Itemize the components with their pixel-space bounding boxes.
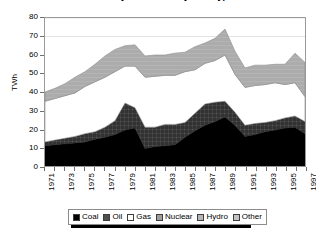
x-tick-label: 1973 bbox=[68, 173, 76, 191]
legend-item-nuclear[interactable]: Nuclear bbox=[156, 213, 193, 221]
plot-area bbox=[44, 17, 306, 167]
x-tick-mark bbox=[165, 167, 166, 171]
x-tick-mark bbox=[115, 167, 116, 171]
plot-inner bbox=[45, 18, 305, 166]
x-tick-mark bbox=[276, 167, 277, 171]
hydro-swatch bbox=[197, 214, 204, 221]
nuclear-swatch bbox=[156, 214, 163, 221]
legend-label: Coal bbox=[82, 213, 98, 221]
x-tick-mark bbox=[145, 167, 146, 171]
x-tick-label: 1983 bbox=[169, 173, 177, 191]
legend-label: Other bbox=[242, 213, 262, 221]
x-tick-mark bbox=[155, 167, 156, 171]
x-tick-label: 1971 bbox=[48, 173, 56, 191]
x-tick-mark bbox=[64, 167, 65, 171]
x-tick-label: 1997 bbox=[310, 173, 316, 191]
y-tick-label: 60 bbox=[29, 51, 38, 59]
x-tick-mark bbox=[185, 167, 186, 171]
x-tick-mark bbox=[125, 167, 126, 171]
x-tick-mark bbox=[135, 167, 136, 171]
legend-label: Hydro bbox=[206, 213, 227, 221]
x-tick-mark bbox=[235, 167, 236, 171]
x-axis: 1971197319751977197919811983198519871989… bbox=[44, 167, 306, 207]
y-tick-label: 40 bbox=[29, 88, 38, 96]
y-tick-label: 10 bbox=[29, 144, 38, 152]
y-tick-label: 20 bbox=[29, 126, 38, 134]
y-tick-label: 80 bbox=[29, 13, 38, 21]
x-tick-label: 1985 bbox=[189, 173, 197, 191]
x-tick-mark bbox=[195, 167, 196, 171]
y-tick-label: 30 bbox=[29, 107, 38, 115]
x-tick-mark bbox=[74, 167, 75, 171]
x-tick-mark bbox=[296, 167, 297, 171]
x-tick-mark bbox=[306, 167, 307, 171]
legend-item-hydro[interactable]: Hydro bbox=[197, 213, 227, 221]
y-tick-label: 70 bbox=[29, 32, 38, 40]
gas-swatch bbox=[127, 214, 134, 221]
legend-label: Gas bbox=[136, 213, 151, 221]
x-tick-label: 1993 bbox=[270, 173, 278, 191]
x-tick-mark bbox=[286, 167, 287, 171]
y-tick-label: 50 bbox=[29, 69, 38, 77]
gridlines bbox=[45, 18, 305, 37]
chart-title-strip: Electricity Generation by Fuel Type bbox=[0, 0, 316, 4]
area-layers bbox=[45, 29, 305, 166]
legend-label: Nuclear bbox=[165, 213, 193, 221]
x-tick-mark bbox=[205, 167, 206, 171]
x-tick-mark bbox=[84, 167, 85, 171]
stacked-area-svg bbox=[45, 18, 305, 166]
legend-label: Oil bbox=[112, 213, 122, 221]
x-tick-label: 1987 bbox=[209, 173, 217, 191]
x-tick-label: 1975 bbox=[88, 173, 96, 191]
chart-title: Electricity Generation by Fuel Type bbox=[83, 0, 233, 1]
legend-item-gas[interactable]: Gas bbox=[127, 213, 151, 221]
y-axis: TWh 01020304050607080 bbox=[0, 0, 44, 169]
x-tick-label: 1979 bbox=[129, 173, 137, 191]
x-tick-label: 1989 bbox=[229, 173, 237, 191]
x-tick-label: 1995 bbox=[290, 173, 298, 191]
x-tick-mark bbox=[44, 167, 45, 171]
coal-swatch bbox=[73, 214, 80, 221]
legend-item-oil[interactable]: Oil bbox=[103, 213, 122, 221]
x-tick-label: 1981 bbox=[149, 173, 157, 191]
x-tick-mark bbox=[54, 167, 55, 171]
x-tick-mark bbox=[256, 167, 257, 171]
legend-item-other[interactable]: Other bbox=[233, 213, 262, 221]
y-axis-title: TWh bbox=[10, 63, 19, 103]
x-tick-mark bbox=[246, 167, 247, 171]
x-tick-mark bbox=[266, 167, 267, 171]
x-tick-label: 1991 bbox=[250, 173, 258, 191]
x-tick-mark bbox=[104, 167, 105, 171]
x-tick-label: 1977 bbox=[108, 173, 116, 191]
other-swatch bbox=[233, 214, 240, 221]
oil-swatch bbox=[103, 214, 110, 221]
x-tick-mark bbox=[175, 167, 176, 171]
x-tick-mark bbox=[94, 167, 95, 171]
chart-legend: CoalOilGasNuclearHydroOther bbox=[68, 209, 267, 225]
legend-item-coal[interactable]: Coal bbox=[73, 213, 98, 221]
chart-container: Electricity Generation by Fuel Type TWh … bbox=[0, 0, 316, 240]
x-tick-mark bbox=[215, 167, 216, 171]
x-tick-mark bbox=[225, 167, 226, 171]
y-tick-label: 0 bbox=[34, 163, 38, 171]
